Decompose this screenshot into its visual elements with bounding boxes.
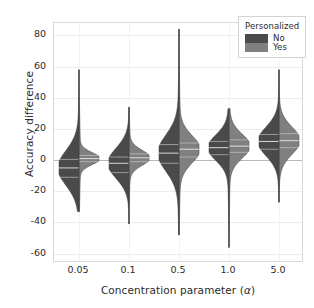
legend-label-yes: Yes [273,43,287,52]
violin-half-1.0-yes [229,109,249,248]
y-tick-label-0: 0 [6,154,46,164]
violin-group-0.5 [154,23,204,261]
violin-half-5.0-no [259,70,279,202]
violin-half-0.5-no [159,29,179,235]
violin-plot-figure: Accuracy difference 806040200-20-40-60 0… [0,0,314,308]
violin-half-0.5-yes [179,29,199,235]
violin-half-5.0-yes [279,70,299,202]
violin-half-0.05-yes [79,70,99,212]
y-tick-label-40: 40 [6,92,46,102]
violin-half-0.05-no [59,70,79,212]
violin-group-5.0 [254,23,303,261]
legend-swatch-no [245,34,268,43]
violin-group-0.05 [54,23,104,261]
legend-title: Personalized [245,21,299,31]
x-axis-title-close: ) [251,284,255,296]
x-tick-label-5.0: 5.0 [248,265,308,275]
x-axis-title-text: Concentration parameter ( [101,284,244,296]
legend-entry-yes: Yes [245,43,299,52]
y-tick-label-60: 60 [6,61,46,71]
legend: Personalized NoYes [238,16,306,58]
violin-half-0.1-no [109,107,129,224]
x-axis-title: Concentration parameter (α) [53,284,303,296]
violin-group-0.1 [104,23,154,261]
y-tick-label--40: -40 [6,216,46,226]
plot-area [53,22,303,262]
legend-swatch-yes [245,43,268,52]
violin-group-1.0 [204,23,254,261]
y-tick-label-80: 80 [6,29,46,39]
y-tick-label--20: -20 [6,185,46,195]
violin-half-0.1-yes [129,107,149,224]
y-tick-label--60: -60 [6,248,46,258]
y-tick-label-20: 20 [6,123,46,133]
alpha-symbol: α [244,284,251,296]
violin-half-1.0-no [209,109,229,248]
legend-entries: NoYes [245,34,299,52]
